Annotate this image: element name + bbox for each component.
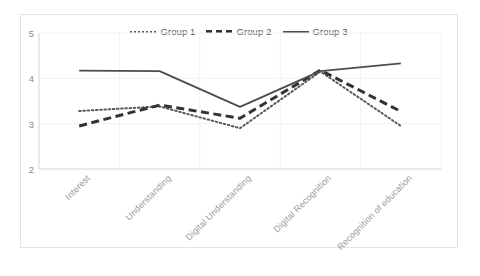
x-tick-label: Interest [63,173,92,202]
x-tick-label: Digital Understanding [184,173,253,242]
y-tick-label: 4 [29,73,34,84]
x-tick-label: Understanding [123,173,172,222]
line-chart-figure: Group 1 Group 2 Group 3 5432 InterestUnd… [20,14,458,248]
x-tick-label: Digital Recognition [272,173,333,234]
plot-canvas [39,33,441,169]
y-tick-label: 2 [29,164,34,175]
y-tick-label: 3 [29,118,34,129]
plot-area: 5432 InterestUnderstandingDigital Unders… [39,33,441,169]
y-tick-label: 5 [29,28,34,39]
x-tick-label: Recognition of education [335,173,414,252]
